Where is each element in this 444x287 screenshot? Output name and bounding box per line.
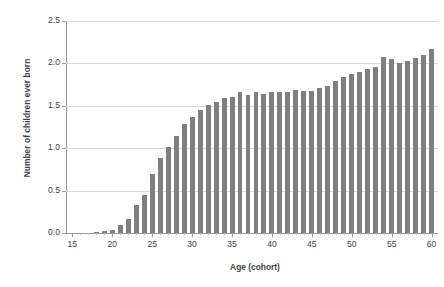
x-axis-ticks: 15202530354045505560: [0, 0, 444, 287]
x-tick-mark-minor: [424, 233, 425, 235]
x-tick-mark-minor: [200, 233, 201, 235]
x-tick-mark-minor: [184, 233, 185, 235]
x-tick-label: 40: [257, 240, 287, 249]
x-tick-mark-minor: [104, 233, 105, 235]
x-tick-mark-minor: [256, 233, 257, 235]
x-tick-mark-minor: [88, 233, 89, 235]
x-tick-mark: [352, 233, 353, 237]
x-tick-mark-minor: [80, 233, 81, 235]
x-tick-mark-minor: [336, 233, 337, 235]
x-tick-mark-minor: [304, 233, 305, 235]
x-tick-mark-minor: [136, 233, 137, 235]
x-tick-mark-minor: [208, 233, 209, 235]
x-tick-label: 15: [57, 240, 87, 249]
x-tick-mark-minor: [384, 233, 385, 235]
x-tick-label: 50: [337, 240, 367, 249]
x-tick-label: 30: [177, 240, 207, 249]
x-tick-mark-minor: [320, 233, 321, 235]
x-tick-mark-minor: [328, 233, 329, 235]
x-tick-mark: [312, 233, 313, 237]
x-tick-mark-minor: [264, 233, 265, 235]
x-tick-mark-minor: [360, 233, 361, 235]
bar-chart: Number of children ever born 0.00.51.01.…: [0, 0, 444, 287]
x-tick-mark-minor: [376, 233, 377, 235]
x-tick-mark-minor: [400, 233, 401, 235]
x-tick-mark-minor: [216, 233, 217, 235]
x-tick-mark-minor: [144, 233, 145, 235]
x-tick-mark-minor: [120, 233, 121, 235]
x-tick-mark: [432, 233, 433, 237]
x-tick-mark: [112, 233, 113, 237]
x-tick-label: 25: [137, 240, 167, 249]
x-tick-mark: [392, 233, 393, 237]
x-tick-mark-minor: [96, 233, 97, 235]
x-tick-mark-minor: [416, 233, 417, 235]
x-axis-title: Age (cohort): [66, 262, 444, 272]
x-tick-mark: [192, 233, 193, 237]
x-tick-mark-minor: [296, 233, 297, 235]
x-tick-label: 45: [297, 240, 327, 249]
x-tick-label: 35: [217, 240, 247, 249]
x-tick-label: 55: [377, 240, 407, 249]
x-tick-mark-minor: [240, 233, 241, 235]
x-tick-mark: [152, 233, 153, 237]
x-tick-label: 60: [417, 240, 444, 249]
x-tick-mark-minor: [288, 233, 289, 235]
x-tick-label: 20: [97, 240, 127, 249]
x-tick-mark: [72, 233, 73, 237]
x-tick-mark-minor: [280, 233, 281, 235]
x-tick-mark-minor: [176, 233, 177, 235]
x-tick-mark-minor: [128, 233, 129, 235]
x-tick-mark-minor: [344, 233, 345, 235]
x-tick-mark-minor: [224, 233, 225, 235]
x-tick-mark: [232, 233, 233, 237]
x-tick-mark: [272, 233, 273, 237]
x-tick-mark-minor: [408, 233, 409, 235]
x-tick-mark-minor: [160, 233, 161, 235]
x-tick-mark-minor: [368, 233, 369, 235]
x-tick-mark-minor: [168, 233, 169, 235]
x-tick-mark-minor: [248, 233, 249, 235]
